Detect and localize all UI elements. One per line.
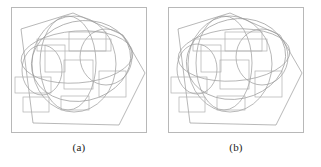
caption-b: (b) xyxy=(168,140,304,154)
caption-a: (a) xyxy=(11,140,147,154)
rect-top-right-wide xyxy=(225,32,262,51)
panel-a-canvas xyxy=(11,7,147,133)
rect-tall-left-center xyxy=(201,45,221,72)
panel-b-canvas xyxy=(168,7,304,133)
panel-b xyxy=(168,7,304,133)
hexagon-outline xyxy=(21,13,145,125)
panel-b-shapes xyxy=(171,9,302,125)
figure-container: (a) (b) xyxy=(0,0,321,167)
rect-center-square xyxy=(220,60,249,89)
rect-bottom-center xyxy=(61,96,89,110)
rect-top-right-wide xyxy=(69,32,106,51)
rect-bottom-center xyxy=(217,96,245,110)
ellipse-large-center xyxy=(32,16,116,112)
panel-a-shapes xyxy=(15,11,145,125)
ellipse-wide-horizontal xyxy=(19,27,134,87)
hexagon-outline xyxy=(178,13,302,125)
ellipse-left-small xyxy=(22,45,62,95)
ellipse-wide-horizontal xyxy=(176,25,291,85)
panel-a xyxy=(11,7,147,133)
rect-center-square xyxy=(64,60,93,89)
